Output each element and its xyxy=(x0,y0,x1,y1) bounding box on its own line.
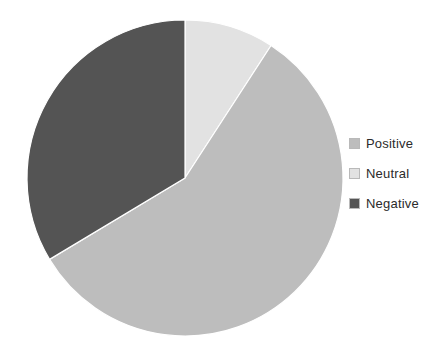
legend-item-negative[interactable]: Negative xyxy=(349,188,444,218)
legend-swatch-negative xyxy=(349,198,360,209)
legend-swatch-neutral xyxy=(349,168,360,179)
pie-plot-area xyxy=(0,0,350,358)
legend-item-positive[interactable]: Positive xyxy=(349,128,444,158)
pie-chart-figure: Positive Neutral Negative xyxy=(0,0,446,358)
legend-item-neutral[interactable]: Neutral xyxy=(349,158,444,188)
chart-legend: Positive Neutral Negative xyxy=(349,128,444,218)
legend-swatch-positive xyxy=(349,138,360,149)
legend-label-positive: Positive xyxy=(366,136,413,151)
pie-svg xyxy=(0,0,350,358)
pie-slice-group xyxy=(27,20,343,336)
legend-label-neutral: Neutral xyxy=(366,166,409,181)
legend-label-negative: Negative xyxy=(366,196,419,211)
